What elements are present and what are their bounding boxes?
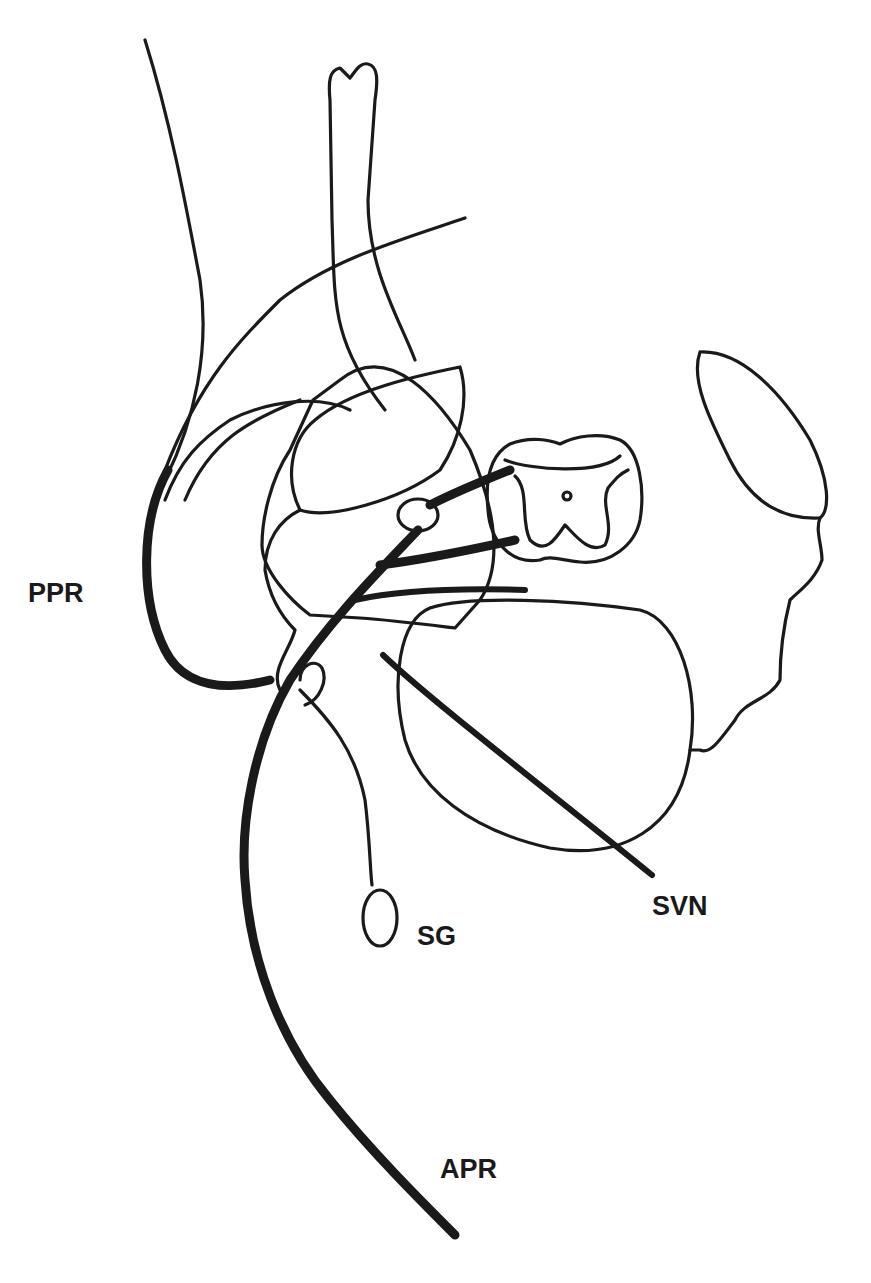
- spinous-process: [329, 64, 415, 410]
- junction-ganglion: [300, 663, 324, 705]
- anterior-primary-ramus: [244, 530, 455, 1235]
- transverse-process-left: [292, 367, 464, 513]
- label-ppr: PPR: [28, 578, 84, 608]
- posterior-primary-ramus: [147, 470, 270, 686]
- transverse-process-right: [697, 352, 826, 518]
- label-svn: SVN: [652, 891, 708, 921]
- rami-communicantes: [300, 690, 372, 885]
- sympathetic-ganglion: [363, 890, 397, 946]
- label-apr: APR: [440, 1154, 497, 1184]
- label-sg: SG: [417, 921, 456, 951]
- sinuvertebral-nerve: [383, 655, 652, 875]
- central-canal: [563, 492, 571, 500]
- grey-matter: [505, 456, 628, 548]
- dorsal-root: [430, 470, 510, 505]
- vertebra-outline-right: [690, 518, 822, 751]
- spinal-nerve-diagram: PPR SVN SG APR: [0, 0, 871, 1283]
- outer-line-1: [145, 40, 203, 480]
- ventral-root-lower: [355, 589, 525, 600]
- vertebral-body: [398, 600, 692, 850]
- outer-line-2: [165, 218, 465, 470]
